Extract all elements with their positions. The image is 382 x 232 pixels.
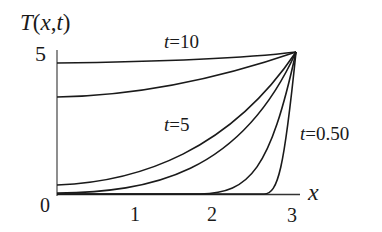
curve-t10 xyxy=(57,52,296,63)
x-tick-2: 2 xyxy=(207,203,217,225)
y-axis-label: T(x,t) xyxy=(20,10,71,35)
annotation-t10: t=10 xyxy=(164,31,199,52)
x-tick-1: 1 xyxy=(130,203,140,225)
x-axis-label: x xyxy=(307,179,319,205)
x-tick-3: 3 xyxy=(287,204,297,226)
chart: T(x,t) 5 0 1 2 3 x t=10 t=5 t=0.50 xyxy=(0,0,382,232)
annotation-t5: t=5 xyxy=(164,114,190,135)
annotation-t050: t=0.50 xyxy=(300,123,349,144)
y-tick-5: 5 xyxy=(35,41,46,66)
curve-t7 xyxy=(57,52,296,97)
origin-label: 0 xyxy=(40,194,50,216)
